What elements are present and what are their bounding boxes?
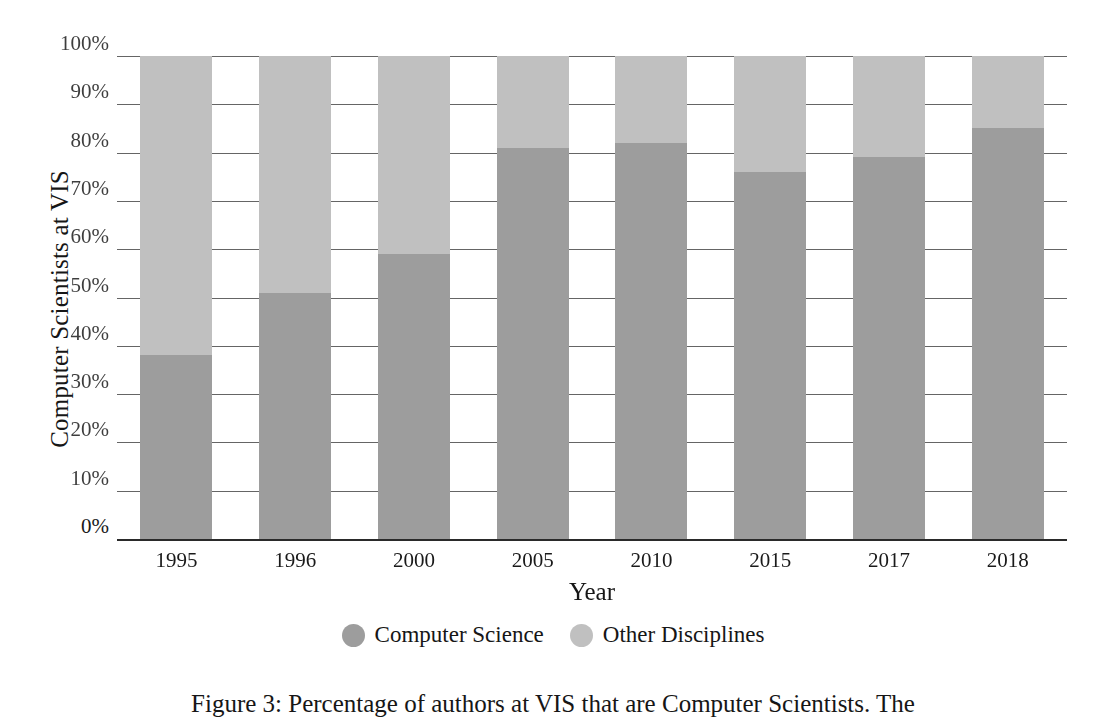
figure-caption: Figure 3: Percentage of authors at VIS t…	[0, 690, 1106, 718]
y-tick-label: 30%	[71, 369, 110, 394]
bar-group-2010[interactable]: 2010	[615, 56, 687, 539]
y-tick-label: 80%	[71, 127, 110, 152]
x-tick-label-2015: 2015	[734, 548, 806, 573]
legend-circle-swatch-icon	[570, 624, 593, 647]
bar-segment-2018-other[interactable]	[972, 56, 1044, 128]
bar-group-2018[interactable]: 2018	[972, 56, 1044, 539]
bar-segment-2005-other[interactable]	[497, 56, 569, 148]
legend-item[interactable]: Computer Science	[342, 622, 544, 648]
bar-segment-1996-other[interactable]	[259, 56, 331, 293]
y-tick-label: 60%	[71, 224, 110, 249]
y-tick-label: 70%	[71, 175, 110, 200]
bar-segment-2018-cs[interactable]	[972, 128, 1044, 539]
bar-segment-1996-cs[interactable]	[259, 293, 331, 539]
x-axis-title: Year	[117, 578, 1067, 606]
y-axis-title: Computer Scientists at VIS	[46, 99, 74, 519]
bar-segment-2015-cs[interactable]	[734, 172, 806, 539]
y-tick-label: 10%	[71, 465, 110, 490]
legend-item[interactable]: Other Disciplines	[570, 622, 765, 648]
y-tick-label: 100%	[60, 31, 109, 56]
chart-legend: Computer ScienceOther Disciplines	[0, 622, 1106, 648]
plot-area: 100%90%80%70%60%50%40%30%20%10%0% 199519…	[117, 56, 1067, 539]
bar-segment-1995-other[interactable]	[140, 56, 212, 355]
legend-label: Computer Science	[375, 622, 544, 648]
bar-segment-2017-other[interactable]	[853, 56, 925, 157]
y-tick-label: 50%	[71, 272, 110, 297]
x-tick-label-2010: 2010	[615, 548, 687, 573]
x-tick-label-2018: 2018	[972, 548, 1044, 573]
bar-segment-1995-cs[interactable]	[140, 355, 212, 539]
bar-segment-2000-other[interactable]	[378, 56, 450, 254]
bar-segment-2015-other[interactable]	[734, 56, 806, 172]
x-tick-label-2005: 2005	[497, 548, 569, 573]
legend-label: Other Disciplines	[603, 622, 765, 648]
bar-group-2017[interactable]: 2017	[853, 56, 925, 539]
bar-group-2015[interactable]: 2015	[734, 56, 806, 539]
y-tick-label: 90%	[71, 79, 110, 104]
bar-series-container: 19951996200020052010201520172018	[117, 56, 1067, 539]
y-tick-label: 0%	[81, 514, 109, 539]
bar-segment-2010-other[interactable]	[615, 56, 687, 143]
bar-segment-2000-cs[interactable]	[378, 254, 450, 539]
bar-segment-2017-cs[interactable]	[853, 157, 925, 539]
x-tick-label-1996: 1996	[259, 548, 331, 573]
bar-segment-2010-cs[interactable]	[615, 143, 687, 539]
y-tick-label: 40%	[71, 320, 110, 345]
bar-group-1995[interactable]: 1995	[140, 56, 212, 539]
gridline-0: 0%	[117, 539, 1067, 541]
x-tick-label-2017: 2017	[853, 548, 925, 573]
bar-group-2000[interactable]: 2000	[378, 56, 450, 539]
x-tick-label-2000: 2000	[378, 548, 450, 573]
legend-circle-swatch-icon	[342, 624, 365, 647]
bar-segment-2005-cs[interactable]	[497, 148, 569, 539]
bar-group-2005[interactable]: 2005	[497, 56, 569, 539]
x-tick-label-1995: 1995	[140, 548, 212, 573]
y-tick-label: 20%	[71, 417, 110, 442]
bar-group-1996[interactable]: 1996	[259, 56, 331, 539]
